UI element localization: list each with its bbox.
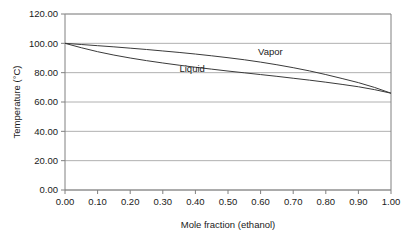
- y-tick-label-120: 120.00: [29, 8, 58, 19]
- x-tick-label-0.70: 0.70: [284, 196, 303, 207]
- y-tick-label-60: 60.00: [34, 96, 58, 107]
- y-tick-label-40: 40.00: [34, 126, 58, 137]
- x-tick-label-0.90: 0.90: [349, 196, 368, 207]
- x-tick-label-1.00: 1.00: [382, 196, 401, 207]
- y-axis-title: Temperature (°C): [11, 66, 22, 139]
- y-tick-labels: 0.0020.0040.0060.0080.00100.00120.00: [29, 8, 58, 195]
- y-tick-label-0: 0.00: [40, 184, 59, 195]
- y-tick-marks: [61, 14, 65, 190]
- annotation-liquid: Liquid: [179, 63, 204, 74]
- x-tick-label-0.60: 0.60: [251, 196, 270, 207]
- y-tick-label-20: 20.00: [34, 155, 58, 166]
- x-tick-label-0.10: 0.10: [88, 196, 107, 207]
- y-tick-label-80: 80.00: [34, 67, 58, 78]
- annotation-vapor: Vapor: [258, 46, 283, 57]
- x-tick-label-0.80: 0.80: [317, 196, 336, 207]
- x-tick-label-0.00: 0.00: [56, 196, 75, 207]
- x-tick-label-0.20: 0.20: [121, 196, 140, 207]
- chart-figure: 0.0020.0040.0060.0080.00100.00120.00 0.0…: [0, 0, 410, 245]
- x-tick-labels: 0.000.100.200.300.400.500.600.700.800.90…: [56, 196, 401, 207]
- vle-phase-diagram: 0.0020.0040.0060.0080.00100.00120.00 0.0…: [0, 0, 410, 245]
- y-tick-label-100: 100.00: [29, 38, 58, 49]
- x-tick-label-0.30: 0.30: [154, 196, 173, 207]
- x-tick-marks: [65, 190, 391, 194]
- x-tick-label-0.50: 0.50: [219, 196, 238, 207]
- x-axis-title: Mole fraction (ethanol): [181, 219, 276, 230]
- x-tick-label-0.40: 0.40: [186, 196, 205, 207]
